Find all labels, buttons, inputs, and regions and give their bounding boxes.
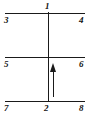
arrow-shaft: [53, 70, 54, 97]
label-middle-left: 5: [4, 60, 9, 69]
label-bottom-right: 8: [79, 104, 84, 113]
bottom-horizontal-line: [5, 101, 85, 102]
label-top-center: 1: [45, 2, 50, 11]
upward-arrow: [49, 63, 58, 97]
label-bottom-center: 2: [44, 104, 49, 113]
diagram-canvas: 1 3 4 5 6 7 2 8: [0, 0, 90, 130]
label-middle-right: 6: [79, 60, 84, 69]
label-bottom-left: 7: [4, 104, 9, 113]
middle-horizontal-line: [5, 57, 85, 58]
label-top-right: 4: [79, 16, 84, 25]
top-horizontal-line: [5, 13, 85, 14]
label-top-left: 3: [4, 16, 9, 25]
